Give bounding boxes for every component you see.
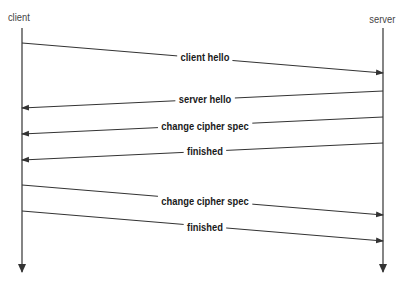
message-label: finished xyxy=(184,145,227,157)
message-label: change cipher spec xyxy=(158,195,252,207)
actor-label-client: client xyxy=(8,11,30,23)
message-label: server hello xyxy=(175,93,234,105)
message-label: client hello xyxy=(177,51,233,63)
message-label: change cipher spec xyxy=(158,120,252,132)
sequence-diagram xyxy=(0,0,402,285)
actor-label-server: server xyxy=(370,13,396,25)
message-label: finished xyxy=(184,221,227,233)
